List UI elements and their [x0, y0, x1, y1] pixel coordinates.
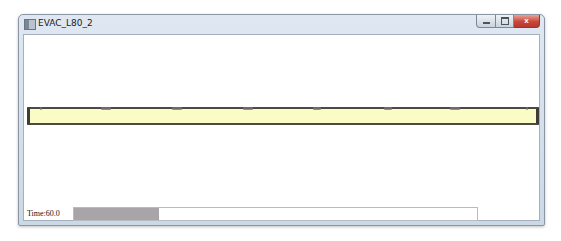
- app-icon[interactable]: [24, 19, 36, 30]
- close-icon: x: [524, 17, 528, 25]
- agent-cluster: [450, 107, 460, 110]
- agent-cluster: [40, 107, 42, 110]
- progress-fill: [74, 208, 159, 220]
- progress-bar: [73, 207, 478, 221]
- agent-cluster: [243, 107, 253, 110]
- simulation-canvas: Time:60.0: [23, 34, 540, 221]
- maximize-icon: [501, 17, 509, 25]
- agent-cluster: [384, 107, 392, 110]
- title-bar[interactable]: EVAC_L80_2 x: [19, 15, 544, 34]
- app-window: EVAC_L80_2 x Time:60.0: [18, 14, 545, 226]
- maximize-button[interactable]: [496, 15, 514, 28]
- corridor: [27, 107, 539, 125]
- agent-cluster: [172, 107, 182, 110]
- caption-buttons: x: [476, 15, 540, 28]
- close-button[interactable]: x: [514, 15, 540, 28]
- window-title: EVAC_L80_2: [38, 18, 93, 28]
- agent-cluster: [101, 107, 111, 110]
- agent-cluster: [526, 107, 528, 110]
- minimize-button[interactable]: [476, 15, 496, 28]
- minimize-icon: [483, 22, 490, 24]
- agent-cluster: [313, 107, 321, 110]
- time-label: Time:60.0: [27, 209, 60, 218]
